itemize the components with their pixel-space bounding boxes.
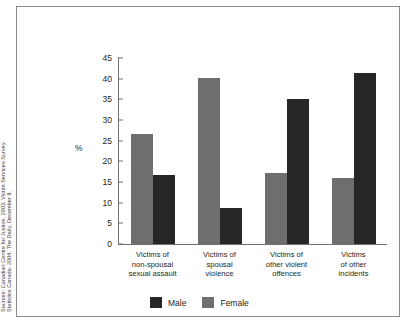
bar-group	[265, 58, 309, 244]
y-axis-tick-mark	[119, 182, 123, 183]
y-axis-tick-label: 15	[103, 177, 112, 187]
legend-item-female[interactable]: Female	[202, 297, 248, 308]
source-note: Sources: Canadian Centre for Justice. 20…	[0, 0, 14, 330]
legend-label: Female	[220, 298, 248, 308]
figure-frame: % 051015202530354045 Victims ofnon-spous…	[16, 6, 400, 317]
bar-female	[332, 178, 354, 244]
y-axis-tick-label: 30	[103, 115, 112, 125]
x-axis-category-label-line: Victims of	[253, 250, 320, 260]
legend-swatch-icon	[150, 297, 162, 308]
bar-group	[198, 58, 242, 244]
x-axis-category-label-line: sexual assault	[119, 269, 186, 279]
source-note-line-2: Statistics Canada. 2004. The Daily, Dece…	[6, 0, 12, 312]
y-axis-tick-mark	[119, 78, 123, 79]
x-axis-category-label-line: non-spousal	[119, 260, 186, 270]
plot-area: 051015202530354045	[119, 58, 387, 244]
bar-group	[131, 58, 175, 244]
x-axis-category-label: Victims ofspousalviolence	[186, 250, 253, 279]
x-axis-category-label-line: Victims of	[186, 250, 253, 260]
legend-swatch-icon	[202, 297, 214, 308]
y-axis-tick-mark	[119, 99, 123, 100]
y-axis-tick-label: 40	[103, 74, 112, 84]
y-axis-tick-label: 0	[107, 239, 112, 249]
y-axis-tick-label: 45	[103, 53, 112, 63]
bar-female	[131, 134, 153, 244]
x-axis-category-label-line: of other	[320, 260, 387, 270]
y-axis-tick-label: 20	[103, 156, 112, 166]
bar-female	[198, 78, 220, 244]
y-axis-tick-mark	[119, 223, 123, 224]
y-axis-tick-mark	[119, 58, 123, 59]
x-axis-category-label-line: offences	[253, 269, 320, 279]
y-axis-title: %	[75, 143, 83, 153]
x-axis-category-label-line: Victims	[320, 250, 387, 260]
y-axis-tick-mark	[119, 161, 123, 162]
y-axis-tick-label: 10	[103, 198, 112, 208]
x-axis-category-label: Victimsof otherincidents	[320, 250, 387, 279]
x-axis-line	[118, 244, 387, 245]
x-axis-category-label: Victims ofnon-spousalsexual assault	[119, 250, 186, 279]
y-axis-tick-mark	[119, 202, 123, 203]
legend-label: Male	[168, 298, 186, 308]
bar-group	[332, 58, 376, 244]
x-axis-category-label-line: spousal	[186, 260, 253, 270]
x-axis-category-label-line: other violent	[253, 260, 320, 270]
chart-legend: MaleFemale	[150, 297, 249, 308]
bar-female	[265, 173, 287, 244]
legend-item-male[interactable]: Male	[150, 297, 186, 308]
y-axis-tick-label: 35	[103, 94, 112, 104]
x-axis-category-label: Victims ofother violentoffences	[253, 250, 320, 279]
bar-male	[220, 208, 242, 244]
bar-male	[153, 175, 175, 244]
y-axis-tick-mark	[119, 140, 123, 141]
y-axis-tick-label: 5	[107, 218, 112, 228]
bar-male	[287, 99, 309, 244]
y-axis-tick-label: 25	[103, 136, 112, 146]
x-axis-category-label-line: incidents	[320, 269, 387, 279]
y-axis-tick-mark	[119, 120, 123, 121]
x-axis-category-label-line: violence	[186, 269, 253, 279]
y-axis-tick-mark	[119, 244, 123, 245]
bar-male	[354, 73, 376, 244]
x-axis-category-label-line: Victims of	[119, 250, 186, 260]
